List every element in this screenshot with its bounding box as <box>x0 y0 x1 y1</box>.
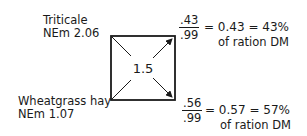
arrow-top-right-icon <box>153 39 172 58</box>
square-center-value: 1.5 <box>133 61 154 76</box>
result-bottom-denominator: .99 <box>182 111 202 124</box>
result-top-numerator: .43 <box>179 14 199 28</box>
line-bottom-left-in <box>112 80 131 99</box>
result-top-caption: of ration DM <box>218 35 289 49</box>
result-bottom-equation: = 0.57 = 57% <box>205 103 290 117</box>
line-top-left-in <box>112 37 131 56</box>
result-top-equation: = 0.43 = 43% <box>204 20 289 34</box>
result-bottom-caption: of ration DM <box>220 118 291 132</box>
result-bottom-numerator: .56 <box>182 97 202 111</box>
result-top-fraction: .43 .99 <box>179 14 199 41</box>
result-bottom-fraction: .56 .99 <box>182 97 202 124</box>
result-top-denominator: .99 <box>179 28 199 41</box>
arrow-bottom-right-icon <box>153 78 172 97</box>
